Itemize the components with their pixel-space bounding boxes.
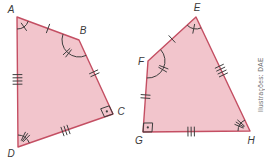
vertex-label-B: B bbox=[80, 25, 87, 36]
vertex-label-C: C bbox=[117, 106, 125, 117]
vertex-label-H: H bbox=[247, 135, 255, 146]
vertex-label-E: E bbox=[194, 2, 201, 13]
vertex-label-F: F bbox=[138, 56, 145, 67]
side-tick-FG-1 bbox=[141, 95, 150, 96]
quadrilateral-ABCD bbox=[17, 17, 113, 147]
vertex-label-A: A bbox=[7, 4, 15, 15]
right-angle-dot-C bbox=[106, 110, 108, 112]
figure-canvas: ABCDEFGH bbox=[0, 0, 265, 164]
geometry-figure: ABCDEFGH bbox=[0, 0, 265, 164]
side-tick-FG-2 bbox=[141, 98, 150, 99]
credit-text: Ilustrações: DAE bbox=[257, 20, 264, 112]
vertex-label-G: G bbox=[135, 135, 143, 146]
vertex-label-D: D bbox=[7, 148, 14, 159]
right-angle-dot-G bbox=[147, 126, 149, 128]
